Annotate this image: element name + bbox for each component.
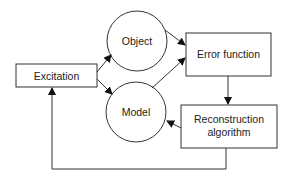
diagram-canvas: Excitation Object Model Error function R… (0, 0, 291, 179)
reconstruction-label-line1: Reconstruction (194, 113, 264, 125)
error-function-label: Error function (197, 48, 260, 60)
excitation-label: Excitation (34, 70, 80, 82)
edge-excitation-model (97, 79, 112, 94)
error-function-node: Error function (186, 33, 271, 76)
object-node: Object (107, 11, 167, 71)
edge-reconstruction-model (167, 121, 181, 128)
reconstruction-node: Reconstruction algorithm (181, 105, 277, 148)
reconstruction-label-line2: algorithm (207, 126, 250, 138)
model-node: Model (106, 82, 166, 142)
edge-excitation-object (97, 55, 111, 72)
excitation-node: Excitation (16, 64, 97, 87)
object-label: Object (122, 35, 152, 47)
model-label: Model (122, 106, 151, 118)
edge-object-error (165, 30, 185, 45)
